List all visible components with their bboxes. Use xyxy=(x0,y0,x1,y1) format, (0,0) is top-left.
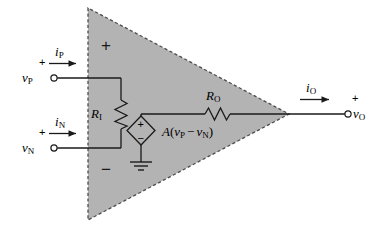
source-plus-sign: + xyxy=(138,119,144,130)
vn-polarity-sign: + xyxy=(39,127,45,138)
ip-current-arrow xyxy=(49,60,76,67)
input-resistor-label: RI xyxy=(91,107,102,122)
source-minus-sign: − xyxy=(138,133,144,144)
ip-current-label: iP xyxy=(55,45,64,60)
vo-voltage-label: vO xyxy=(353,107,365,122)
vo-polarity-sign: + xyxy=(352,93,358,104)
opamp-equivalent-circuit-figure: vP + iP vN + iN + − RI RO + − A(vP−vN) i… xyxy=(0,0,371,228)
io-current-arrow xyxy=(300,96,329,103)
amplifier-minus-sign: − xyxy=(101,161,111,178)
in-current-label: iN xyxy=(55,115,65,130)
in-current-arrow xyxy=(49,130,76,137)
expr-minus: − xyxy=(185,124,196,139)
vn-voltage-label: vN xyxy=(22,141,34,156)
output-resistor-label: RO xyxy=(206,89,220,104)
amplifier-plus-sign: + xyxy=(101,37,111,54)
io-current-label: iO xyxy=(306,81,316,96)
vp-terminal-circle xyxy=(51,75,57,81)
vp-polarity-sign: + xyxy=(39,57,45,68)
vp-voltage-label: vP xyxy=(22,71,33,86)
vn-terminal-circle xyxy=(51,145,57,151)
expr-close-paren: ) xyxy=(209,124,213,139)
vo-terminal-circle xyxy=(345,111,351,117)
source-expression-label: A(vP−vN) xyxy=(162,125,213,140)
gain-symbol: A xyxy=(162,124,170,139)
